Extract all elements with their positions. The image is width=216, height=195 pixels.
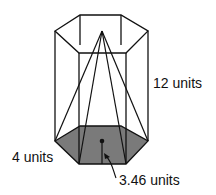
side-label: 4 units <box>12 149 53 165</box>
apothem-label: 3.46 units <box>119 172 180 188</box>
height-label: 12 units <box>153 75 202 91</box>
prism-pyramid-diagram: 12 units 4 units 3.46 units <box>0 0 216 195</box>
center-dot <box>100 139 105 144</box>
